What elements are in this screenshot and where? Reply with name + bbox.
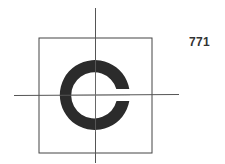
landolt-c-diagram — [0, 0, 225, 164]
figure-number-label: 771 — [189, 36, 210, 48]
horizontal-crosshair-overlay — [60, 95, 130, 96]
